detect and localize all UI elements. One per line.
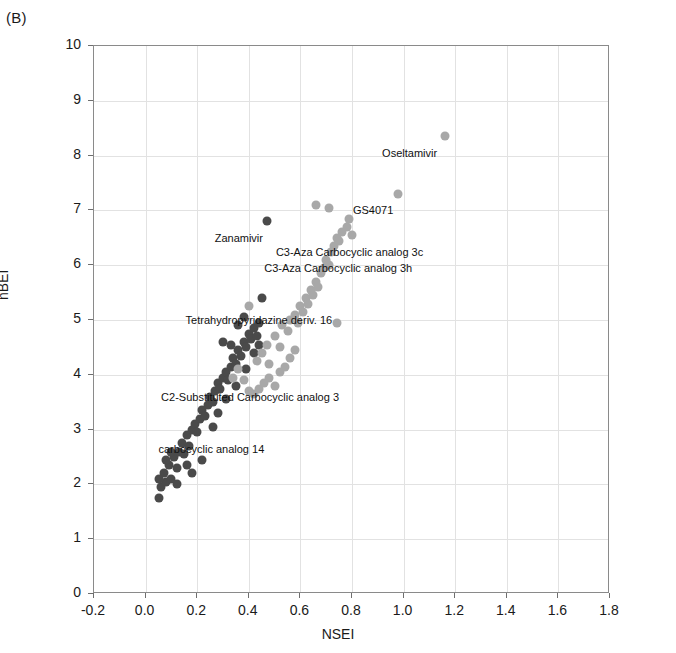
data-point [286, 354, 295, 363]
scatter-plot-area: OseltamivirGS4071ZanamivirC3-Aza Carbocy… [93, 45, 609, 593]
point-annotation: C2-Substituted Carbocyclic analog 3 [161, 391, 339, 403]
x-axis-label: NSEI [0, 626, 676, 642]
data-point [208, 422, 217, 431]
y-tick-label: 9 [41, 91, 81, 107]
data-point [291, 346, 300, 355]
x-tick [506, 593, 507, 598]
data-point [348, 231, 357, 240]
y-tick [88, 45, 93, 46]
data-point [229, 373, 238, 382]
x-tick [93, 593, 94, 598]
data-point [244, 302, 253, 311]
y-tick-label: 10 [41, 36, 81, 52]
data-point [154, 474, 163, 483]
data-point [262, 217, 271, 226]
data-point [162, 455, 171, 464]
y-tick-label: 2 [41, 474, 81, 490]
x-tick [557, 593, 558, 598]
y-gridline [94, 156, 608, 157]
figure-panel-b: (B) nBEI NSEI OseltamivirGS4071Zanamivir… [0, 0, 676, 653]
y-tick [88, 264, 93, 265]
data-point [154, 494, 163, 503]
data-point [172, 463, 181, 472]
y-tick [88, 319, 93, 320]
y-tick-label: 3 [41, 420, 81, 436]
data-point [252, 357, 261, 366]
data-point [265, 359, 274, 368]
data-point [332, 318, 341, 327]
y-tick [88, 483, 93, 484]
point-annotation: Tetrahydropyridazine deriv. 16 [186, 314, 333, 326]
data-point [200, 411, 209, 420]
data-point [257, 348, 266, 357]
y-tick-label: 7 [41, 200, 81, 216]
y-gridline [94, 320, 608, 321]
point-annotation: Zanamivir [215, 232, 263, 244]
y-tick-label: 0 [41, 584, 81, 600]
data-point [226, 340, 235, 349]
data-point [234, 365, 243, 374]
x-gridline [455, 46, 456, 592]
point-annotation: Oseltamivir [382, 147, 437, 159]
data-point [394, 189, 403, 198]
x-gridline [507, 46, 508, 592]
data-point [324, 203, 333, 212]
data-point [309, 291, 318, 300]
y-gridline [94, 210, 608, 211]
y-tick-label: 5 [41, 310, 81, 326]
x-gridline [404, 46, 405, 592]
point-annotation: GS4071 [353, 204, 393, 216]
data-point [270, 381, 279, 390]
data-point [242, 365, 251, 374]
y-tick-label: 4 [41, 365, 81, 381]
y-tick [88, 538, 93, 539]
y-tick-label: 1 [41, 529, 81, 545]
data-point [198, 455, 207, 464]
data-point [262, 340, 271, 349]
y-tick [88, 374, 93, 375]
y-gridline [94, 539, 608, 540]
data-point [311, 200, 320, 209]
data-point [193, 428, 202, 437]
x-gridline [352, 46, 353, 592]
y-tick [88, 429, 93, 430]
point-annotation: carbocyclic analog 14 [159, 443, 265, 455]
x-tick [609, 593, 610, 598]
point-annotation: C3-Aza Carbocyclic analog 3c [276, 246, 423, 258]
x-tick [454, 593, 455, 598]
x-tick [299, 593, 300, 598]
y-tick [88, 100, 93, 101]
data-point [239, 376, 248, 385]
y-tick [88, 209, 93, 210]
data-point [257, 294, 266, 303]
data-point [280, 362, 289, 371]
x-gridline [146, 46, 147, 592]
y-axis-label: nBEI [0, 270, 11, 300]
point-annotation: C3-Aza Carbocyclic analog 3h [264, 262, 412, 274]
x-tick [145, 593, 146, 598]
y-gridline [94, 101, 608, 102]
y-tick [88, 593, 93, 594]
data-point [213, 409, 222, 418]
x-tick [196, 593, 197, 598]
x-tick [248, 593, 249, 598]
y-gridline [94, 375, 608, 376]
data-point [172, 480, 181, 489]
data-point [314, 283, 323, 292]
x-gridline [558, 46, 559, 592]
data-point [275, 343, 284, 352]
x-tick [403, 593, 404, 598]
data-point [182, 461, 191, 470]
data-point [335, 236, 344, 245]
data-point [270, 332, 279, 341]
data-point [188, 469, 197, 478]
panel-label: (B) [6, 9, 27, 26]
data-point [440, 132, 449, 141]
x-tick [351, 593, 352, 598]
y-tick-label: 8 [41, 146, 81, 162]
x-tick-label: 1.8 [579, 602, 639, 618]
data-point [304, 299, 313, 308]
y-gridline [94, 430, 608, 431]
y-tick-label: 6 [41, 255, 81, 271]
data-point [283, 326, 292, 335]
